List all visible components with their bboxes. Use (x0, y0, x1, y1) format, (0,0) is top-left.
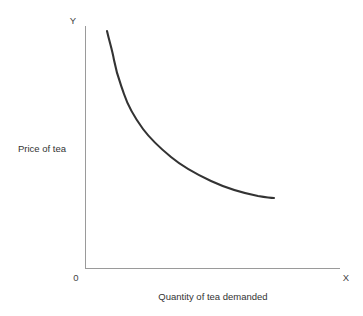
origin-label: 0 (73, 272, 78, 283)
y-axis-title: Price of tea (18, 143, 67, 154)
y-axis-tip-label: Y (70, 15, 77, 26)
demand-curve-chart: Y X 0 Price of tea Quantity of tea deman… (0, 0, 363, 316)
x-axis-title: Quantity of tea demanded (158, 291, 267, 302)
x-axis-tip-label: X (343, 272, 350, 283)
